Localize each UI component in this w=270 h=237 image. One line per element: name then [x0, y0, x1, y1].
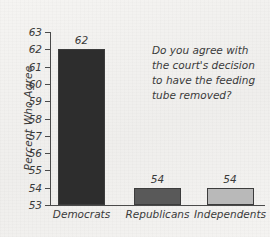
y-axis-tick-mark	[45, 67, 51, 68]
y-axis-tick-mark	[45, 136, 51, 137]
annotation-line: to have the feeding	[152, 73, 268, 88]
x-axis-line	[50, 205, 265, 206]
bar-democrats[interactable]	[58, 49, 105, 205]
y-axis-tick-mark	[45, 153, 51, 154]
y-axis-tick-mark	[45, 119, 51, 120]
y-axis-tick-mark	[45, 205, 51, 206]
y-axis-tick-label: 59	[18, 95, 42, 107]
y-axis-tick-label: 54	[18, 182, 42, 194]
y-axis-tick-mark	[45, 49, 51, 50]
y-axis-tick-label: 60	[18, 78, 42, 90]
bar-republicans[interactable]	[134, 188, 181, 205]
y-axis-tick-mark	[45, 188, 51, 189]
y-axis-tick-label: 57	[18, 130, 42, 142]
y-axis-tick-label: 55	[18, 164, 42, 176]
annotation-line: Do you agree with	[152, 43, 268, 58]
x-axis-label-democrats: Democrats	[53, 208, 110, 220]
y-axis-tick-mark	[45, 170, 51, 171]
y-axis-tick-mark	[45, 32, 51, 33]
y-axis-tick-mark	[45, 84, 51, 85]
bar-value-label: 54	[151, 173, 164, 185]
bar-value-label: 54	[223, 173, 236, 185]
y-axis-tick-label: 63	[18, 26, 42, 38]
bar-value-label: 62	[75, 34, 88, 46]
annotation-line: tube removed?	[152, 88, 268, 103]
bar-independents[interactable]	[207, 188, 254, 205]
y-axis-tick-label: 56	[18, 147, 42, 159]
annotation-line: the court's decision	[152, 58, 268, 73]
y-axis-tick-label: 58	[18, 113, 42, 125]
x-axis-label-republicans: Republicans	[126, 208, 190, 220]
survey-question-annotation: Do you agree withthe court's decisionto …	[152, 43, 268, 103]
bar-chart: Percent Who Agree 6362616059585756555453…	[0, 0, 270, 237]
y-axis-tick-label: 61	[18, 61, 42, 73]
y-axis-tick-mark	[45, 101, 51, 102]
x-axis-label-independents: Independents	[194, 208, 266, 220]
y-axis-tick-label: 53	[18, 199, 42, 211]
y-axis-tick-label: 62	[18, 43, 42, 55]
